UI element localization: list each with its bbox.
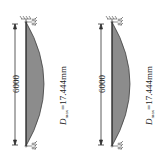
diagram-right: 6000 (97, 16, 155, 150)
svg-text:Dmax=17.444mm: Dmax=17.444mm (58, 66, 69, 126)
deflection-shape (112, 22, 130, 146)
svg-text:Dmax=17.444mm: Dmax=17.444mm (144, 66, 155, 126)
deflection-shape (26, 22, 44, 146)
deflection-diagrams: 6000 (0, 0, 158, 159)
dmax-value: =17.444mm (144, 66, 154, 110)
dmax-label: Dmax=17.444mm (144, 66, 155, 126)
dmax-label: Dmax=17.444mm (58, 66, 69, 126)
dmax-value: =17.444mm (58, 66, 68, 110)
length-label: 6000 (11, 75, 21, 94)
length-label: 6000 (97, 75, 107, 94)
diagram-left: 6000 (11, 16, 69, 150)
